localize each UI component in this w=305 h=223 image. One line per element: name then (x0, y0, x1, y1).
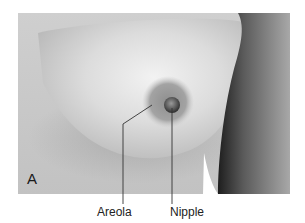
nipple-label: Nipple (170, 205, 204, 219)
anatomy-figure: A Areola Nipple (0, 0, 305, 223)
photo-illustration (18, 13, 290, 194)
breast-photograph (18, 13, 290, 194)
panel-letter: A (27, 170, 37, 187)
areola-label: Areola (97, 205, 132, 219)
